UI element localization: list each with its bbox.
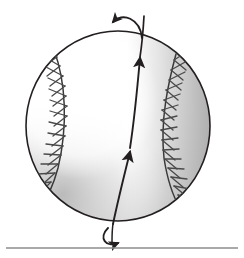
bottom-spin-arrow	[103, 228, 118, 244]
figure-container	[0, 0, 244, 258]
axis-bottom-stub	[112, 224, 113, 242]
bottom-spin-arrow-path	[103, 228, 118, 244]
baseball-spin-figure	[0, 0, 244, 258]
baseball	[26, 31, 210, 221]
